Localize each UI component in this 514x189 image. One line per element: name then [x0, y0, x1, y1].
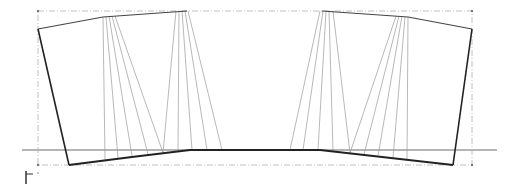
- pattern-diagram: [0, 0, 514, 189]
- slash-line: [109, 16, 132, 156]
- axis-marker-icon: [26, 171, 39, 184]
- slash-line: [329, 11, 333, 151]
- slash-line: [303, 11, 323, 150]
- slash-line: [333, 11, 350, 153]
- slash-line: [103, 17, 105, 160]
- right-edge: [453, 29, 472, 165]
- slash-line: [182, 11, 192, 150]
- slash-line: [318, 11, 326, 150]
- left-edge: [38, 29, 69, 165]
- bottom-curve: [69, 150, 453, 165]
- slash-line: [178, 11, 179, 151]
- top-edge-left: [38, 11, 187, 29]
- top-edge-right: [322, 11, 472, 29]
- slash-line: [350, 16, 396, 153]
- slash-line: [407, 17, 408, 159]
- axis-dot: [37, 172, 39, 174]
- slash-line: [290, 11, 320, 150]
- corner-dot: [471, 164, 473, 166]
- corner-dot: [37, 10, 39, 12]
- slash-line: [115, 16, 163, 153]
- slash-line: [188, 11, 222, 150]
- slash-line: [393, 17, 405, 158]
- slash-line: [163, 11, 176, 153]
- corner-dot: [471, 10, 473, 12]
- slash-line: [112, 16, 148, 154]
- slash-line: [106, 17, 118, 158]
- slash-lines: [103, 11, 408, 160]
- corner-dot: [37, 164, 39, 166]
- slash-line: [185, 11, 207, 150]
